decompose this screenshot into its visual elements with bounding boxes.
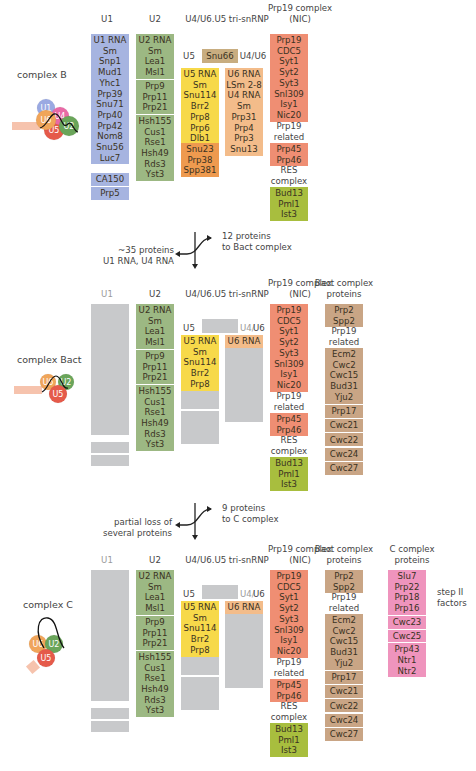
protein-label: Prp21 [143,638,168,649]
column-header-u2: U2 [136,14,174,25]
u5-protein-box: U5 RNASmSnu114Brr2Prp8Prp6Dlb1 [181,68,219,145]
res-box: Bud13Pml1Ist3 [270,457,308,491]
label-text: complex [271,176,307,187]
column-header-c-complex-sub: proteins [384,555,440,566]
protein-label: Syt2 [279,67,298,78]
protein-label: U5 RNA [184,69,217,80]
protein-label: Sm [103,46,117,57]
protein-label: Bud13 [275,188,303,199]
protein-label: Snu23 [186,144,213,155]
protein-label: Snu114 [184,357,217,368]
u6-particle-icon: U6 [36,110,56,130]
res-box: Bud13Pml1Ist3 [270,723,308,757]
bact-single-box: Cwc22 [325,699,363,712]
step-ii-factors-label: step IIfactors [437,587,467,609]
protein-label: Prp8 [190,379,210,390]
label-text: Prp19 [332,592,357,603]
bact-single-box: Cwc27 [325,462,363,475]
lost-prp5-block [91,455,129,466]
label-text: related [274,402,304,413]
label-text: Prp19 [277,657,302,668]
label-text: related [274,668,304,679]
lost-u5-proteins-block [181,657,219,675]
protein-label: Prp38 [188,155,213,166]
protein-label: Msl1 [145,67,165,78]
protein-label: Prp42 [98,121,123,132]
u2-particle-icon: U2 [59,116,79,136]
protein-label: Pml1 [278,199,299,210]
lost-snu66-block [202,319,238,333]
protein-label: Cwc15 [330,636,359,647]
protein-label: Bud13 [275,724,303,735]
u6-rna-box: U6 RNA [225,335,263,348]
complex-bact-label: complex Bact [17,354,82,365]
protein-label: U6 RNA [228,69,261,80]
u2-protein-box: U2 RNASmLea1Msl1Prp9Prp11Prp21Hsh155Cus1… [136,304,174,451]
label-text: related [329,603,359,614]
protein-label: Brr2 [191,634,209,645]
u5-label: U5 [182,51,196,62]
c-complex-protein-box: Slu7Prp22Prp18Prp16Cwc23Cwc25Prp43Ntr1Nt… [388,570,426,677]
label-text: RES [281,165,298,176]
transition-arrow-icon [175,501,215,541]
protein-label: Rse1 [144,407,165,418]
complex-c-icon: U6U2U5 [14,612,94,682]
protein-label: Ecm2 [332,349,356,360]
protein-label: Cwc23 [393,617,422,628]
protein-label: U4 RNA [228,90,261,101]
protein-label: Prp45 [277,680,302,691]
u2-protein-box: U2 RNASmLea1Msl1Prp9Prp11Prp21Hsh155Cus1… [136,34,174,181]
u2-protein-box-group: U2 RNASmLea1Msl1 [136,570,174,615]
protein-label: Snp1 [99,56,121,67]
protein-label: Hsh155 [139,652,172,663]
protein-label: Mud1 [98,67,122,78]
protein-label: CA150 [96,174,124,185]
bact-top-box: Prp2Spp2 [325,570,363,593]
protein-label: Snu114 [184,90,217,101]
protein-label: Nic20 [277,646,301,657]
res-box: Bud13Pml1Ist3 [270,187,308,221]
c-complex-protein-box-group: Cwc25 [388,629,426,643]
protein-label: Sm [193,80,207,91]
protein-label: Prp43 [395,644,420,655]
note-line: factors [437,598,467,609]
protein-label: Nic20 [277,380,301,391]
res-complex-label: REScomplex [265,435,313,456]
protein-label: Sm [193,347,207,358]
protein-label: Rds3 [144,695,165,706]
protein-label: Snl309 [274,359,304,370]
lost-u1-block [91,570,129,701]
protein-label: Cwc22 [330,701,359,712]
protein-label: Bud13 [275,458,303,469]
protein-label: Hsh49 [141,148,168,159]
bact-single-box: Cwc21 [325,419,363,432]
note-line: 9 proteins [222,503,279,514]
u5-label: U5 [182,589,196,600]
protein-label: Isy1 [280,635,298,646]
protein-label: U5 RNA [184,602,217,613]
protein-label: Prp19 [277,305,302,316]
protein-label: Prp8 [190,112,210,123]
protein-label: Isy1 [280,99,298,110]
bact-related-box: Ecm2Cwc2Cwc15Bud31Yju2 [325,614,363,670]
bact-single-box: Cwc24 [325,448,363,461]
protein-label: Prp46 [277,691,302,702]
protein-label: U1 RNA [94,35,127,46]
protein-label: U2 RNA [139,571,172,582]
partial-loss-note: partial loss ofseveral proteins [92,517,172,539]
protein-label: CDC5 [277,316,301,327]
nic-related-box: Prp45Prp46 [270,413,308,436]
column-header-bact-sub: proteins [314,555,374,566]
protein-label: Syt3 [279,78,298,89]
protein-label: Snu13 [230,144,257,155]
protein-label: U6 RNA [228,602,261,613]
u2-protein-box-group: Hsh155Cus1Rse1Hsh49Rds3Yst3 [136,114,174,181]
complex-b-label: complex B [17,69,67,80]
bact-prp19-related-label: Prp19related [325,326,363,347]
protein-label: Syt3 [279,348,298,359]
protein-label: Prp17 [332,672,357,683]
protein-label: CDC5 [277,582,301,593]
u6-label: U6 [253,323,265,334]
protein-label: Cwc24 [330,715,359,726]
protein-label: Syt2 [279,337,298,348]
